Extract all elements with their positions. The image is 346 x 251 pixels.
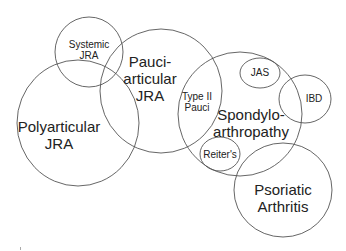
label-line: JRA bbox=[69, 50, 110, 61]
label-line: Pauci- bbox=[123, 54, 176, 71]
jas-label: JAS bbox=[251, 67, 269, 78]
label-line: Pauci bbox=[182, 102, 212, 113]
label-line: Arthritis bbox=[254, 199, 312, 216]
systemic-jra-label: Systemic JRA bbox=[69, 39, 110, 61]
label-line: Polyarticular bbox=[18, 119, 101, 136]
label-line: JRA bbox=[18, 136, 101, 153]
label-line: Psoriatic bbox=[254, 182, 312, 199]
label-line: Reiter's bbox=[203, 149, 237, 160]
spondyloarthropathy-label: Spondylo- arthropathy bbox=[213, 107, 289, 141]
label-line: JAS bbox=[251, 67, 269, 78]
pauciarticular-jra-label: Pauci- articular JRA bbox=[123, 54, 176, 104]
label-line: Spondylo- bbox=[213, 107, 289, 124]
label-line: Type II bbox=[182, 91, 212, 102]
reiters-label: Reiter's bbox=[203, 149, 237, 160]
label-line: Systemic bbox=[69, 39, 110, 50]
ibd-label: IBD bbox=[306, 93, 323, 104]
label-line: IBD bbox=[306, 93, 323, 104]
polyarticular-jra-label: Polyarticular JRA bbox=[18, 119, 101, 153]
label-line: articular bbox=[123, 71, 176, 88]
type-ii-pauci-label: Type II Pauci bbox=[182, 91, 212, 113]
label-line: JRA bbox=[123, 87, 176, 104]
psoriatic-arthritis-label: Psoriatic Arthritis bbox=[254, 182, 312, 216]
label-line: arthropathy bbox=[213, 124, 289, 141]
stray-mark bbox=[20, 247, 21, 250]
